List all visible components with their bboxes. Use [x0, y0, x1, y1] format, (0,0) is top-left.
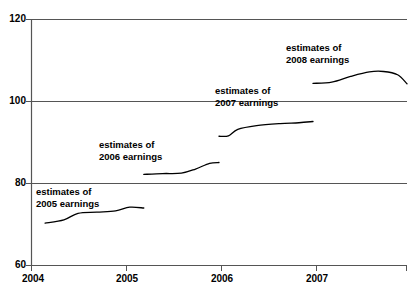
series-line-2007 — [219, 122, 313, 137]
gridlines — [31, 20, 407, 266]
series-line-2005 — [45, 207, 144, 223]
x-tick-label-2007: 2007 — [297, 274, 337, 284]
y-tick-label-80: 80 — [0, 178, 26, 188]
y-tick-label-120: 120 — [0, 14, 26, 24]
earnings-estimates-chart: 120 100 80 60 2004 2005 2006 2007 estima… — [0, 0, 419, 298]
annotation-2007-line1: estimates of — [215, 85, 278, 97]
series-line-2006 — [144, 163, 219, 175]
annotation-2007-earnings: estimates of 2007 earnings — [215, 85, 278, 108]
x-tick-label-2004: 2004 — [13, 274, 53, 284]
y-tick-label-100: 100 — [0, 96, 26, 106]
y-axis-ticks — [26, 20, 31, 266]
annotation-2005-line1: estimates of — [36, 186, 99, 198]
series-line-2008 — [313, 71, 407, 84]
y-tick-label-60: 60 — [0, 260, 26, 270]
annotation-2006-line1: estimates of — [99, 139, 162, 151]
x-tick-label-2006: 2006 — [202, 274, 242, 284]
annotation-2005-line2: 2005 earnings — [36, 198, 99, 210]
chart-plot-area — [0, 0, 419, 298]
annotation-2006-line2: 2006 earnings — [99, 151, 162, 163]
annotation-2007-line2: 2007 earnings — [215, 97, 278, 109]
annotation-2008-earnings: estimates of 2008 earnings — [286, 42, 349, 65]
annotation-2008-line1: estimates of — [286, 42, 349, 54]
x-tick-label-2005: 2005 — [107, 274, 147, 284]
annotation-2008-line2: 2008 earnings — [286, 54, 349, 66]
annotation-2006-earnings: estimates of 2006 earnings — [99, 139, 162, 162]
annotation-2005-earnings: estimates of 2005 earnings — [36, 186, 99, 209]
